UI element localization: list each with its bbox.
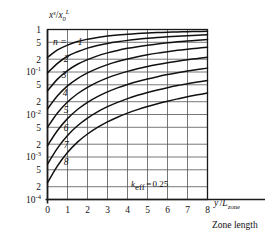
series-label-n-3: 3: [61, 70, 67, 80]
series-label-n-5: 5: [64, 105, 69, 115]
y-tick-label: 2: [36, 140, 41, 150]
y-tick-label: 2: [36, 182, 41, 192]
chart-canvas: 15210-15210-25210-35210-4 012345678 n =1…: [0, 0, 267, 233]
x-tick-label: 0: [45, 205, 50, 215]
y-tick-label: 5: [36, 80, 41, 90]
series-label-n-1: 1: [78, 37, 83, 47]
y-tick-label: 5: [36, 123, 41, 133]
y-tick-label: 5: [36, 165, 41, 175]
y-tick-label: 1: [36, 25, 41, 35]
x-tick-label: 1: [65, 205, 70, 215]
zone-refining-chart: 15210-15210-25210-35210-4 012345678 n =1…: [0, 0, 267, 233]
series-label-n-6: 6: [64, 123, 69, 133]
series-label-n-2: 2: [64, 54, 69, 64]
series-label-prefix: n =: [53, 37, 67, 47]
x-tick-label: 2: [85, 205, 90, 215]
series-label-n-4: 4: [63, 88, 68, 98]
x-tick-label: 4: [125, 205, 130, 215]
series-label-n-8: 8: [64, 157, 69, 167]
y-tick-label: 5: [36, 38, 41, 48]
x-tick-label: 3: [105, 205, 110, 215]
bottom-caption-text: Zone length: [212, 220, 258, 230]
bottom-caption: Zone length: [212, 220, 258, 230]
x-tick-label: 7: [185, 205, 190, 215]
x-tick-label: 6: [165, 205, 170, 215]
y-tick-label: 2: [36, 55, 41, 65]
y-tick-label: 2: [36, 97, 41, 107]
x-tick-label: 5: [145, 205, 150, 215]
x-tick-label: 8: [205, 205, 210, 215]
